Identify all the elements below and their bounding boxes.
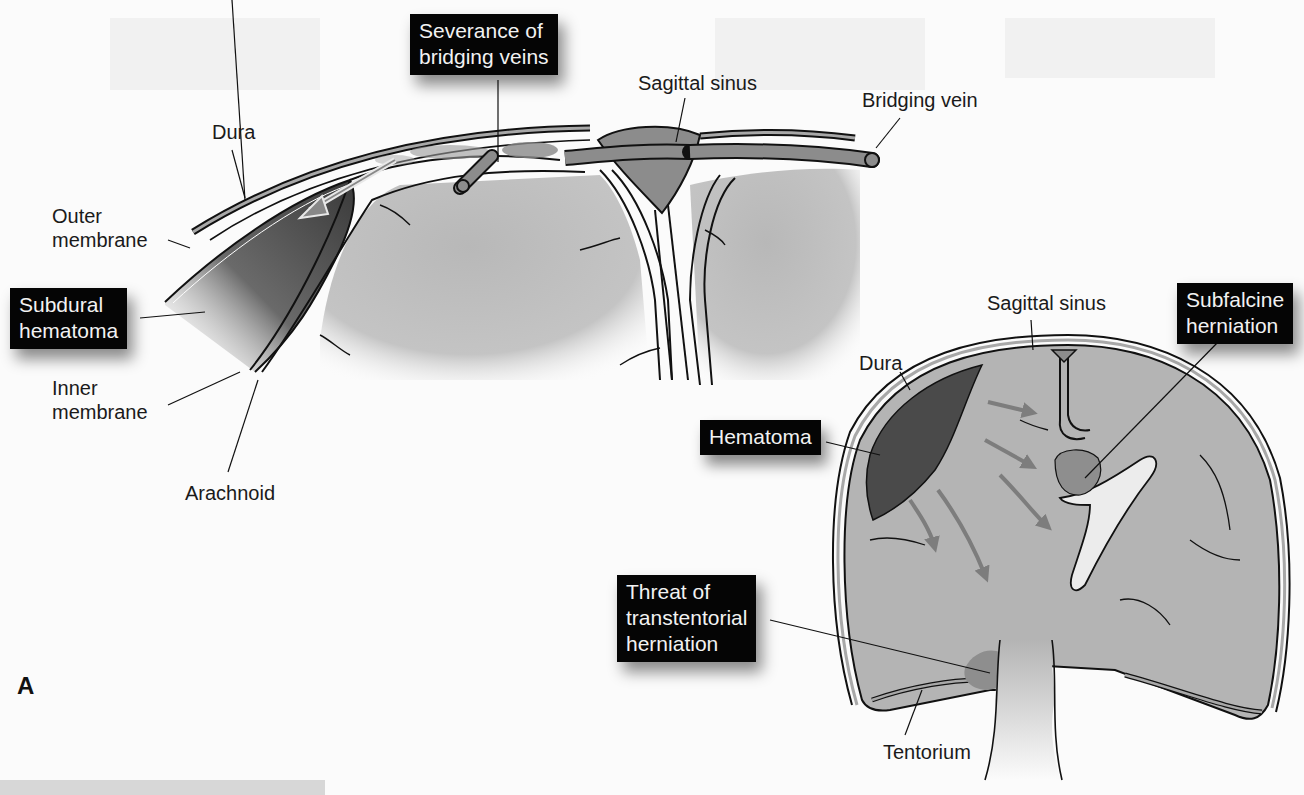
label-bridging-vein: Bridging vein bbox=[862, 89, 978, 111]
label-tentorium: Tentorium bbox=[883, 741, 971, 763]
label-outer-membrane: Outer membrane bbox=[52, 204, 148, 252]
anatomy-figure: Dura Outer membrane Inner membrane Arach… bbox=[0, 0, 1304, 795]
right-panel-artwork bbox=[770, 320, 1290, 780]
label-sagittal-sinus-right: Sagittal sinus bbox=[987, 292, 1106, 314]
callout-severance-bridging-veins: Severance of bridging veins bbox=[410, 14, 558, 75]
label-arachnoid: Arachnoid bbox=[185, 482, 275, 504]
label-sagittal-sinus-left: Sagittal sinus bbox=[638, 72, 757, 94]
callout-transtentorial-herniation: Threat of transtentorial herniation bbox=[617, 575, 756, 662]
label-dura-left: Dura bbox=[212, 121, 255, 143]
brain-tissue-right bbox=[690, 169, 860, 380]
label-inner-membrane: Inner membrane bbox=[52, 376, 148, 424]
callout-hematoma: Hematoma bbox=[700, 420, 821, 455]
diagram-artwork bbox=[0, 0, 1304, 795]
label-dura-right: Dura bbox=[859, 352, 902, 374]
panel-letter: A bbox=[17, 672, 34, 700]
callout-subdural-hematoma: Subdural hematoma bbox=[10, 288, 127, 349]
brain-tissue-left bbox=[320, 175, 650, 380]
callout-subfalcine-herniation: Subfalcine herniation bbox=[1177, 283, 1293, 344]
